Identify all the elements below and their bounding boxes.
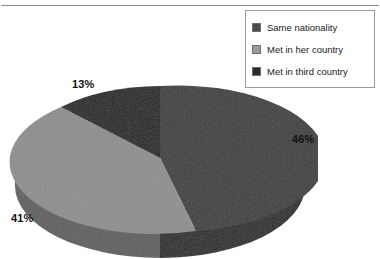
pie-graphic: [8, 84, 318, 259]
legend-item-same-nationality[interactable]: Same nationality: [252, 16, 368, 38]
legend-label-met-in-her-country: Met in her country: [267, 44, 343, 55]
data-label-met-in-third-country: 13%: [72, 78, 94, 90]
legend-item-met-in-her-country[interactable]: Met in her country: [252, 38, 368, 60]
legend-label-met-in-third-country: Met in third country: [267, 66, 348, 77]
chart-legend: Same nationality Met in her country Met …: [245, 10, 375, 88]
chart-title-cropped: [0, 0, 380, 4]
legend-swatch-same-nationality: [252, 23, 261, 32]
legend-swatch-met-in-third-country: [252, 67, 261, 76]
pie-svg: [8, 84, 318, 259]
legend-label-same-nationality: Same nationality: [267, 22, 337, 33]
data-label-same-nationality: 46%: [292, 133, 314, 145]
pie-chart-figure: Same nationality Met in her country Met …: [0, 0, 380, 259]
data-label-met-in-her-country: 41%: [11, 212, 33, 224]
header-divider: [1, 5, 379, 6]
legend-item-met-in-third-country[interactable]: Met in third country: [252, 60, 368, 82]
legend-swatch-met-in-her-country: [252, 45, 261, 54]
